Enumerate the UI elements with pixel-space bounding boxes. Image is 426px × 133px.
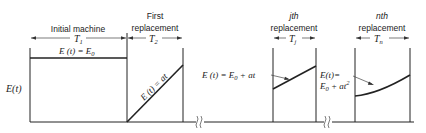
section-header: First <box>147 11 164 21</box>
equation-label: E (t) = E0 + at <box>201 70 256 81</box>
period-label: Tj <box>289 33 297 45</box>
equation-label: E (t) = E0 <box>58 46 95 57</box>
replacement-diagram: E(t) Initial machine T1 E (t) = E0 First… <box>0 0 426 133</box>
period-label: T1 <box>74 33 83 45</box>
section-header: replacement <box>359 23 406 33</box>
axis-break-icon <box>324 116 330 128</box>
period-label: Tn <box>374 33 383 45</box>
quadratic-curve <box>355 75 410 96</box>
y-axis-label: E(t) <box>5 83 22 95</box>
equation-label: E0 + at2 <box>319 79 350 92</box>
section-header: replacement <box>132 23 179 33</box>
section-header: jth <box>289 11 299 21</box>
axis-break-icon <box>196 116 202 128</box>
section-jth-replacement: jth replacement Tj E (t) = E0 + at <box>201 11 318 122</box>
linear-curve <box>127 65 183 122</box>
equation-label: E (t) = at <box>138 71 170 103</box>
section-header: nth <box>376 11 388 21</box>
linear-offset-curve <box>273 66 316 89</box>
section-header: replacement <box>271 23 318 33</box>
period-label: T2 <box>149 33 159 45</box>
section-nth-replacement: nth replacement Tn E(t)= E0 + at2 <box>319 11 410 122</box>
section-first-replacement: First replacement T2 E (t) = at <box>127 11 183 122</box>
equation-label: E(t)= <box>319 70 340 80</box>
section-initial-machine: Initial machine T1 E (t) = E0 <box>30 24 127 122</box>
